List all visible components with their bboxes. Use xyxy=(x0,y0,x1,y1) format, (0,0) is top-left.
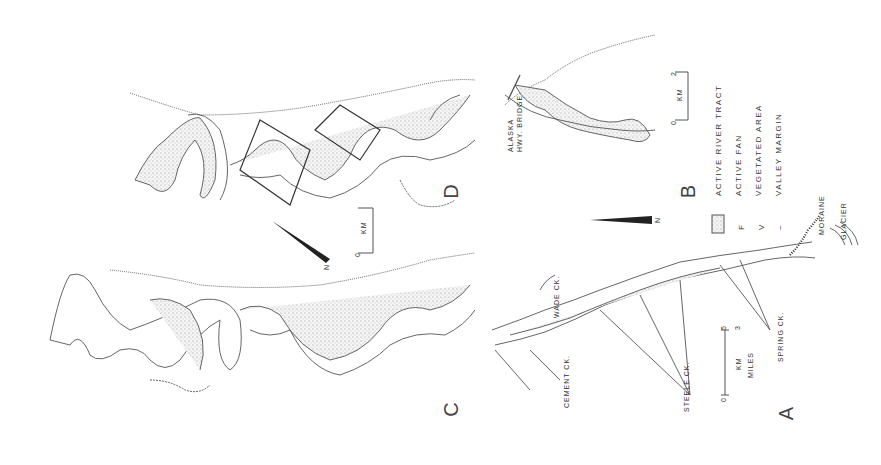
scale-zero-d: 0 xyxy=(354,252,361,257)
north-label-d: N xyxy=(323,264,330,270)
north-label-a: N xyxy=(654,217,661,223)
scale-label-b: KM xyxy=(676,89,683,102)
scale-zero-b: 0 xyxy=(670,120,677,125)
legend-valley-margin: VALLEY MARGIN xyxy=(774,113,783,196)
panel-b-map xyxy=(505,35,655,142)
panel-label-d: D xyxy=(440,184,463,198)
scale-km-label-a: KM xyxy=(735,358,742,371)
legend-vegetated-area: VEGETATED AREA xyxy=(754,104,763,196)
scale-miles-label-a: MILES xyxy=(747,352,754,378)
legend-active-river-tract-swatch xyxy=(712,215,724,233)
scale-zero-a: 0 xyxy=(720,397,727,402)
label-hwy-bridge: HWY. BRIDGE xyxy=(516,95,523,152)
panel-c-map xyxy=(50,253,475,392)
panel-a-scale xyxy=(721,330,729,395)
panel-label-a: A xyxy=(775,407,798,420)
label-glacier: GLACIER xyxy=(840,202,847,240)
panel-a-map xyxy=(492,215,858,395)
legend-valley-margin-symbol: ~ xyxy=(776,224,785,230)
legend-active-fan: ACTIVE FAN xyxy=(734,134,743,196)
north-arrow-d xyxy=(272,221,330,263)
panel-label-b: B xyxy=(677,185,700,198)
label-steele-ck: STEELE CK. xyxy=(683,362,690,412)
scale-label-d: KM xyxy=(360,222,367,235)
legend-vegetated-symbol: V xyxy=(757,223,766,230)
scale-max-km-a: 5 xyxy=(720,325,727,330)
label-wade-ck: WADE CK. xyxy=(553,276,560,318)
scale-max-miles-a: 3 xyxy=(734,325,741,330)
panel-label-c: C xyxy=(440,402,463,416)
legend-active-river-tract: ACTIVE RIVER TRACT xyxy=(714,85,723,196)
scale-max-b: 2 xyxy=(670,71,677,76)
label-moraine: MORAINE xyxy=(818,195,825,235)
legend-active-fan-symbol: F xyxy=(737,224,746,230)
label-cement-ck: CEMENT CK. xyxy=(563,355,570,408)
north-arrow-a xyxy=(590,216,652,224)
label-spring-ck: SPRING CK. xyxy=(777,312,784,362)
map-figure xyxy=(0,0,881,465)
panel-d-map xyxy=(130,80,475,207)
label-alaska: ALASKA xyxy=(507,119,514,152)
